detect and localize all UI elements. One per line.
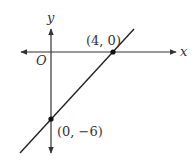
point-4-0 — [110, 49, 115, 54]
point-label-4-0: (4, 0) — [86, 33, 121, 48]
point-label-0-neg6: (0, −6) — [57, 124, 103, 139]
coordinate-plane: y x O (4, 0) (0, −6) — [0, 0, 195, 161]
origin-label: O — [36, 53, 47, 68]
x-axis-label: x — [180, 44, 188, 59]
point-0-neg6 — [48, 116, 53, 121]
y-axis-label: y — [46, 10, 55, 25]
